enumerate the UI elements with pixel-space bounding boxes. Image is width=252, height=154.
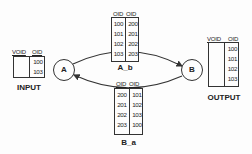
input-label: INPUT [10,83,48,92]
b-a-cell: 202 [115,110,129,120]
b-a-label: B_a [114,138,143,147]
b-a-cell: 100 [130,120,144,130]
a-b-cell: 202 [126,39,140,49]
output-cell: 101 [225,54,240,64]
input-cell: 103 [30,67,46,77]
b-a-cell: 102 [130,100,144,110]
output-table: 100 101 102 103 [208,42,239,87]
b-a-cell: 200 [115,90,129,100]
input-table: 100 103 [13,56,45,78]
b-a-header-left: OID [116,81,126,87]
output-label: OUTPUT [203,93,245,102]
a-b-cell: 103 [112,49,125,59]
output-oid-column: 100 101 102 103 [224,43,240,86]
b-a-table-header: OID OID [115,81,143,88]
b-a-cell: 101 [130,90,144,100]
input-header-void: VOID [12,49,26,55]
b-a-cell: 103 [130,110,144,120]
output-cell: 103 [225,74,240,84]
b-a-right-column: 101 102 103 100 [129,89,144,134]
node-b: B [181,59,203,81]
b-a-cell: 203 [115,120,129,130]
a-b-cell: 200 [126,19,140,29]
output-cell: 100 [225,44,240,54]
a-b-cell: 100 [112,19,125,29]
a-b-left-column: 100 101 102 103 [112,18,125,61]
a-b-label: A_b [111,63,139,72]
b-a-cell: 201 [115,100,129,110]
input-cell: 100 [30,57,46,67]
a-b-cell: 102 [112,39,125,49]
node-a: A [53,59,75,81]
a-b-cell: 101 [112,29,125,39]
b-a-table: 200 201 202 203 101 102 103 100 [114,88,143,135]
input-header-oid: OID [32,49,42,55]
a-b-table: 100 101 102 103 200 201 202 203 [111,17,139,62]
b-a-left-column: 200 201 202 203 [115,89,129,134]
input-table-header: VOID OID [12,49,46,56]
a-b-cell: 201 [126,29,140,39]
input-oid-column: 100 103 [29,57,46,77]
b-a-header-right: OID [129,81,139,87]
a-b-cell: 203 [126,49,140,59]
a-b-right-column: 200 201 202 203 [125,18,140,61]
output-cell: 102 [225,64,240,74]
